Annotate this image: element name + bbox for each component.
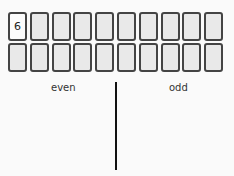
odd-zone-label: odd [169,82,188,93]
card-face-down[interactable] [117,43,136,72]
card-face-down[interactable] [182,12,201,41]
card-face-down[interactable] [182,43,201,72]
card-face-down[interactable] [52,43,71,72]
card-face-down[interactable] [52,12,71,41]
card-face-down[interactable] [161,43,180,72]
card-face-down[interactable] [95,12,114,41]
card-face-up[interactable]: 6 [8,12,27,41]
card-face-down[interactable] [8,43,27,72]
card-face-down[interactable] [117,12,136,41]
card-face-down[interactable] [161,12,180,41]
card-grid: 6 [8,12,223,72]
zone-divider [115,82,117,170]
card-face-down[interactable] [139,12,158,41]
card-face-down[interactable] [73,43,92,72]
card-face-down[interactable] [30,12,49,41]
card-face-down[interactable] [95,43,114,72]
card-face-down[interactable] [139,43,158,72]
card-face-down[interactable] [204,43,223,72]
card-face-down[interactable] [73,12,92,41]
card-face-down[interactable] [204,12,223,41]
even-zone-label: even [51,82,76,93]
card-face-down[interactable] [30,43,49,72]
